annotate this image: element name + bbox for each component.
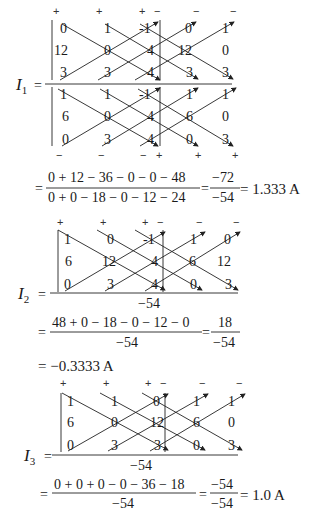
matrix-cell: 4 [151, 255, 158, 269]
matrix-cell: 0 [64, 278, 71, 292]
matrix-cell: 0 [228, 416, 235, 430]
matrix-cell: 12 [102, 255, 116, 269]
ratio-denominator: −54 [212, 191, 234, 205]
matrix-cell: 3 [186, 66, 193, 80]
matrix-cell: 4 [147, 44, 154, 58]
matrix-cell: 4 [147, 66, 154, 80]
matrix-cell: 0 [186, 133, 193, 147]
matrix-cell: 0 [104, 110, 111, 124]
denominator-expression: 0 + 0 − 18 − 0 − 12 − 24 [48, 191, 185, 205]
matrix-cell: 1 [186, 88, 193, 102]
matrix-cell: 6 [62, 110, 69, 124]
numerator-expression: 0 + 12 − 36 − 0 − 0 − 48 [48, 171, 185, 185]
ratio-numerator: −54 [211, 478, 233, 492]
matrix-cell: 1 [222, 88, 229, 102]
matrix-cell: 6 [67, 416, 74, 430]
matrix-cell: 0 [190, 278, 197, 292]
equals-sign: = [34, 79, 42, 93]
equals-sign: = [202, 326, 210, 340]
matrix-cell: 1 [193, 395, 200, 409]
matrix-cell: 1 [64, 233, 71, 247]
denominator-expression: −54 [116, 336, 138, 350]
matrix-cell: 3 [104, 133, 111, 147]
sign: − [230, 6, 236, 17]
equals-sign: = [199, 488, 207, 502]
ratio-denominator: −54 [211, 497, 233, 511]
denominator-expression: −54 [112, 497, 134, 511]
sign: + [57, 217, 63, 228]
sign: − [154, 6, 160, 17]
sign: − [196, 217, 202, 228]
result: = 1.333 A [240, 182, 300, 197]
matrix-cell: 3 [111, 439, 118, 453]
matrix-cell: 4 [147, 133, 154, 147]
sign: + [96, 6, 102, 17]
matrix-cell: 1 [228, 395, 235, 409]
sign: − [160, 378, 166, 389]
matrix-cell: -1 [139, 88, 151, 102]
sign: + [156, 150, 162, 161]
matrix-cell: 1 [104, 22, 111, 36]
sign: − [140, 150, 146, 161]
sign: − [236, 378, 242, 389]
matrix-cell: 0 [107, 233, 114, 247]
matrix-cell: 1 [222, 22, 229, 36]
matrix-cell: 6 [65, 255, 72, 269]
matrix-cell: 0 [224, 233, 231, 247]
result: = −0.3333 A [38, 359, 114, 374]
matrix-cell: 12 [150, 416, 164, 430]
equals-sign: = [38, 326, 46, 340]
matrix-cell: 0 [104, 44, 111, 58]
equals-sign: = [38, 288, 46, 302]
sign: + [142, 217, 148, 228]
matrix-cell: 3 [60, 66, 67, 80]
matrix-cell: 3 [222, 66, 229, 80]
matrix-cell: 3 [104, 66, 111, 80]
variable-label: I2 [18, 285, 29, 305]
matrix-cell: 1 [60, 88, 67, 102]
sign: + [195, 150, 201, 161]
matrix-cell: 0 [62, 133, 69, 147]
sign: + [139, 6, 145, 17]
matrix-cell: 1 [111, 395, 118, 409]
sign: − [193, 6, 199, 17]
equals-sign: = [35, 182, 43, 196]
sign: + [232, 150, 238, 161]
ratio-denominator: −54 [213, 336, 235, 350]
matrix-cell: 0 [60, 22, 67, 36]
matrix-cell: 4 [151, 278, 158, 292]
variable-label: I3 [24, 447, 35, 467]
variable-label: I1 [16, 76, 27, 96]
matrix-cell: 12 [217, 255, 231, 269]
matrix-cell: 0 [193, 439, 200, 453]
result: = 1.0 A [240, 488, 285, 503]
equals-sign: = [201, 182, 209, 196]
equals-sign: = [40, 488, 48, 502]
matrix-cell: 0 [111, 416, 118, 430]
denominator: −54 [130, 459, 152, 473]
sign: − [199, 378, 205, 389]
matrix-cell: 12 [54, 44, 68, 58]
matrix-cell: 3 [225, 278, 232, 292]
matrix-cell: 6 [186, 110, 193, 124]
matrix-cell: 6 [189, 255, 196, 269]
matrix-cell: 0 [222, 110, 229, 124]
sign: − [98, 150, 104, 161]
ratio-numerator: 18 [218, 316, 232, 330]
matrix-cell: -1 [143, 233, 155, 247]
matrix-cell: 0 [185, 22, 192, 36]
numerator-expression: 48 + 0 − 18 − 0 − 12 − 0 [52, 316, 189, 330]
matrix-cell: 1 [104, 88, 111, 102]
denominator: −54 [138, 297, 160, 311]
sign: − [233, 217, 239, 228]
matrix-cell: 12 [178, 44, 192, 58]
matrix-cell: 0 [153, 395, 160, 409]
matrix-cell: 0 [67, 439, 74, 453]
matrix-cell: 4 [147, 110, 154, 124]
matrix-cell: 3 [222, 133, 229, 147]
equals-sign: = [44, 450, 52, 464]
matrix-cell: 1 [190, 233, 197, 247]
sign: + [103, 378, 109, 389]
matrix-cell: 3 [154, 439, 161, 453]
sign: − [56, 150, 62, 161]
